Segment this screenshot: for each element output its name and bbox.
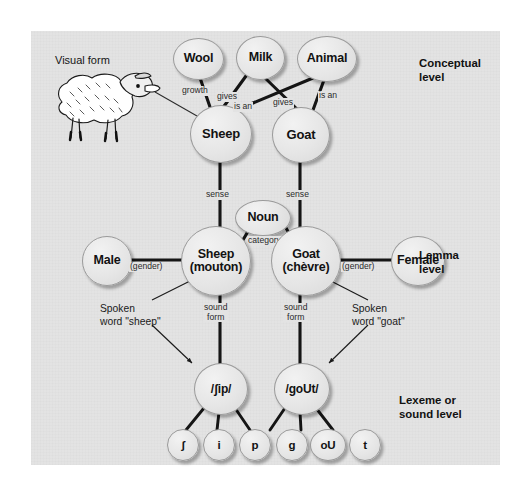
edge-label-sheep-soundform: sound form [203,303,228,322]
node-goat-lemma-line2: (chèvre) [282,261,329,275]
edge-label-goat-soundform: sound form [283,303,308,322]
node-noun[interactable]: Noun [235,200,291,236]
sheep-soundform-line2: form [207,312,224,322]
edge-label-sheep-sense: sense [205,190,230,200]
node-phoneme-p[interactable]: p [239,429,271,461]
node-goat-sound[interactable]: /goUt/ [274,363,330,415]
goat-soundform-line1: sound [284,302,307,312]
node-phoneme-t[interactable]: t [349,429,381,461]
edge-sound-ph-g [270,408,285,430]
node-phoneme-g[interactable]: g [276,429,308,461]
edge-sound-ph-p [235,408,250,430]
node-phoneme-i[interactable]: i [203,429,235,461]
lexeme-line1: Lexeme or [399,394,456,406]
edge-sound-ph-t [316,408,333,430]
node-animal[interactable]: Animal [297,36,357,82]
edge-label-animal-goat: is an [318,91,338,101]
arrow-spoken-goat-down [329,325,368,363]
edge-label-goat-sense: sense [285,190,310,200]
node-milk[interactable]: Milk [236,36,285,80]
node-sheep[interactable]: Sheep [190,105,252,163]
node-sheep-lemma[interactable]: Sheep (mouton) [181,226,251,296]
edge-label-milk-goat: gives [272,98,294,108]
node-sheep-sound[interactable]: /ʃip/ [194,363,248,415]
level-label-lexeme: Lexeme or sound level [399,393,462,422]
level-label-lemma: Lemma level [419,248,459,277]
edge-label-growth: growth [181,86,209,96]
node-wool[interactable]: Wool [173,38,224,80]
annotation-spoken-sheep: Spoken word "sheep" [100,303,161,328]
spoken-sheep-line1: Spoken [100,303,135,314]
spoken-sheep-line2: word "sheep" [100,316,161,327]
lemma-line2: level [419,263,444,275]
edge-label-animal-sheep: is an [233,102,253,112]
arrow-spoken-sheep-down [152,325,192,363]
node-phoneme-ou[interactable]: oU [310,429,346,461]
edge-label-female-gender: (gender) [341,262,375,272]
conceptual-line1: Conceptual [419,57,481,69]
edge-label-male-gender: (gender) [129,262,163,272]
node-sheep-lemma-line1: Sheep [198,248,235,262]
node-sheep-lemma-line2: (mouton) [190,261,243,275]
node-goat-lemma-line1: Goat [292,248,320,262]
node-goat-lemma[interactable]: Goat (chèvre) [271,226,341,296]
diagram-stage: Visual form [0,0,526,488]
level-label-conceptual: Conceptual level [419,56,481,85]
node-phoneme-sh[interactable]: ʃ [167,429,199,461]
node-male[interactable]: Male [82,236,132,286]
goat-soundform-line2: form [287,312,304,322]
conceptual-line2: level [419,71,444,83]
edge-sound-ph-sh [186,408,204,430]
node-goat[interactable]: Goat [272,107,330,163]
annotation-spoken-goat: Spoken word "goat" [352,303,405,328]
lemma-line1: Lemma [419,249,459,261]
sheep-soundform-line1: sound [204,302,227,312]
spoken-goat-line2: word "goat" [352,316,405,327]
spoken-goat-line1: Spoken [352,303,387,314]
lexeme-line2: sound level [399,408,462,420]
